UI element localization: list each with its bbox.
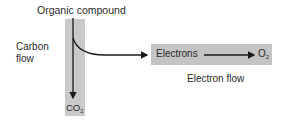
carbon-flow-label: Carbon flow <box>16 41 56 65</box>
organic-compound-label: Organic compound <box>37 4 126 16</box>
o2-label: O2 <box>258 48 269 60</box>
co2-label: CO2 <box>66 102 84 114</box>
electron-flow-label: Electron flow <box>187 73 244 84</box>
carbon-flow-line2: flow <box>16 53 56 65</box>
carbon-flow-line1: Carbon <box>16 41 56 53</box>
electrons-label: Electrons <box>156 48 198 59</box>
branch-arrow <box>73 38 147 55</box>
